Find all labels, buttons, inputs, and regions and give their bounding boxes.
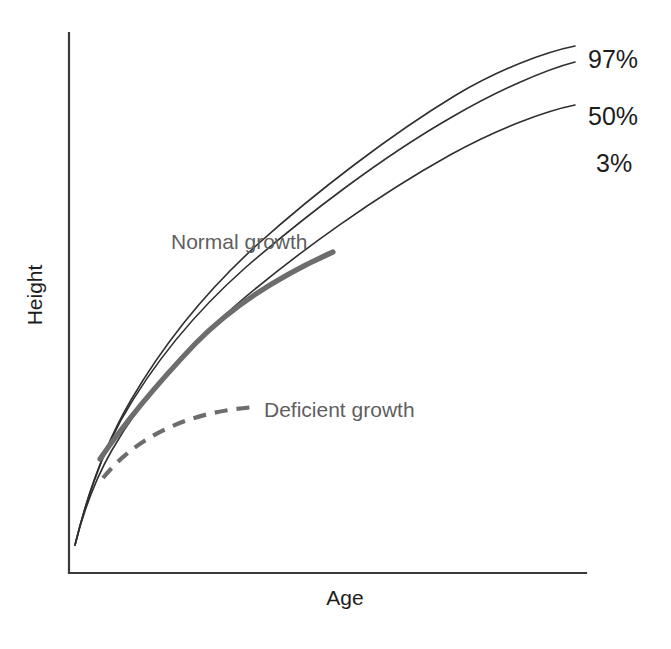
y-axis-label: Height [23,264,46,325]
growth-chart: 97% 50% 3% Normal growth Deficient growt… [0,0,671,649]
annotation-normal-growth: Normal growth [171,230,308,253]
percentile-label-97: 97% [588,45,638,73]
percentile-label-50: 50% [588,102,638,130]
percentile-curve-50 [75,62,575,545]
normal-growth-line [100,252,333,459]
percentile-curve-3 [75,105,575,545]
x-axis-label: Age [326,586,363,609]
percentile-curve-97 [75,46,575,545]
chart-canvas: 97% 50% 3% Normal growth Deficient growt… [0,0,671,649]
annotation-deficient-growth: Deficient growth [264,398,415,421]
deficient-growth-line [103,407,256,478]
percentile-label-3: 3% [596,149,632,177]
